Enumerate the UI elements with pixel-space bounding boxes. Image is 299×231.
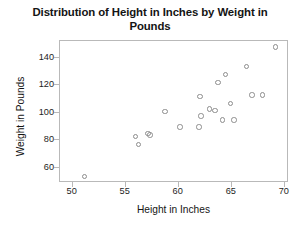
x-tick-mark [284,182,285,187]
plot-area [59,40,288,182]
x-tick-mark [231,182,232,187]
scatter-chart-figure: Distribution of Height in Inches by Weig… [0,0,299,231]
y-tick-mark [54,139,59,140]
x-tick-mark [178,182,179,187]
x-axis-title: Height in Inches [59,204,288,215]
y-tick-label: 80 [30,134,54,144]
x-tick-mark [72,182,73,187]
y-tick-mark [54,167,59,168]
x-tick-label: 55 [110,186,140,196]
y-tick-mark [54,57,59,58]
chart-title: Distribution of Height in Inches by Weig… [14,6,286,33]
x-tick-label: 50 [57,186,87,196]
y-tick-mark [54,84,59,85]
y-tick-label: 60 [30,162,54,172]
y-tick-label: 100 [30,107,54,117]
x-tick-mark [125,182,126,187]
x-tick-label: 70 [269,186,299,196]
y-tick-label: 120 [30,79,54,89]
chart-title-line-2: Pounds [129,20,170,32]
x-tick-label: 60 [163,186,193,196]
x-tick-label: 65 [216,186,246,196]
y-tick-mark [54,112,59,113]
chart-title-line-1: Distribution of Height in Inches by Weig… [32,6,267,18]
y-tick-label: 140 [30,52,54,62]
y-axis-tick-labels: 6080100120140 [24,0,54,231]
y-axis-title: Weight in Pounds [15,57,26,177]
